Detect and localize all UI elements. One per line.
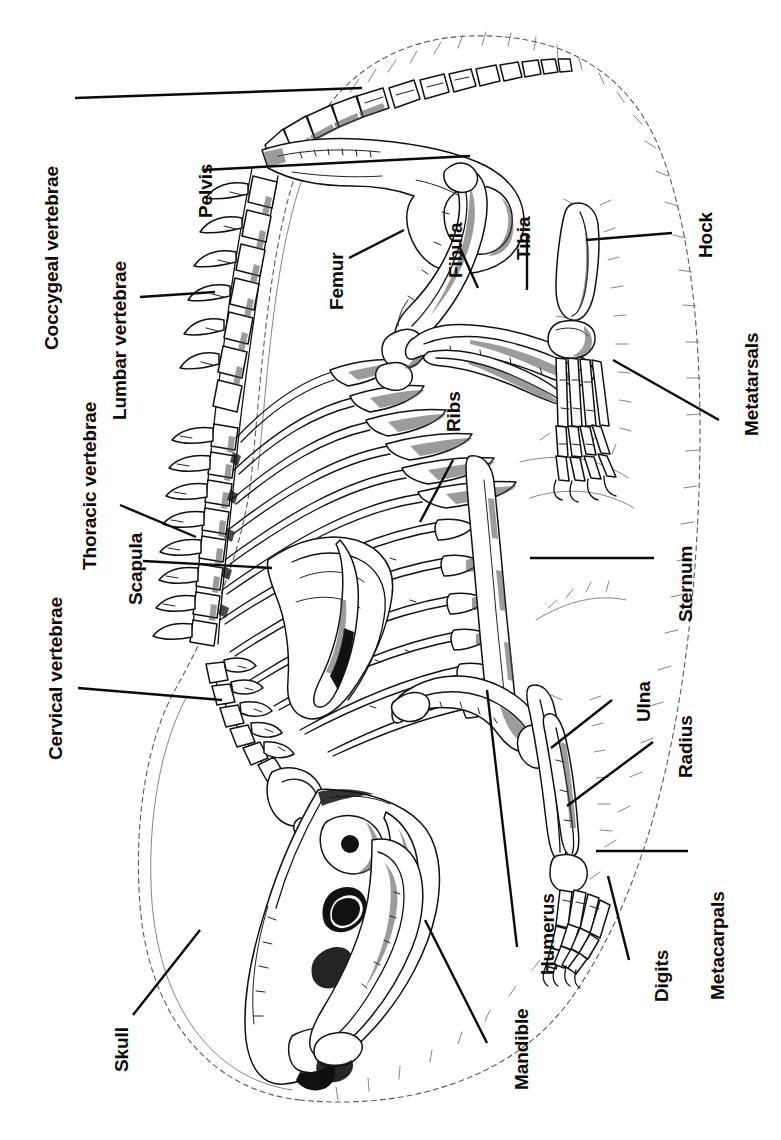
leader-radius xyxy=(567,742,653,806)
diagram-page: .bone { fill:#ffffff; stroke:#111111; st… xyxy=(0,0,781,1140)
label-ribs: Ribs xyxy=(444,391,463,432)
label-mandible: Mandible xyxy=(512,1008,531,1090)
label-metatarsals: Metatarsals xyxy=(742,333,761,436)
label-cervical-vertebrae: Cervical vertebrae xyxy=(46,597,65,760)
label-sternum: Sternum xyxy=(676,546,695,622)
label-tibia: Tibia xyxy=(514,217,533,261)
leader-digits xyxy=(608,876,629,960)
hind-digit-bones xyxy=(554,425,616,502)
thoracic-column xyxy=(153,424,241,646)
label-pelvis: Pelvis xyxy=(196,164,215,218)
label-skull: Skull xyxy=(112,1027,131,1072)
label-digits: Digits xyxy=(652,950,671,1002)
leader-femur xyxy=(349,230,404,258)
label-femur: Femur xyxy=(327,252,346,310)
metacarpal-bones xyxy=(550,854,610,938)
label-humerus: Humerus xyxy=(538,893,557,975)
leader-skull xyxy=(133,930,200,1015)
hock-bone xyxy=(548,203,599,358)
leader-metatarsals xyxy=(613,360,719,420)
label-hock: Hock xyxy=(696,212,715,258)
label-coccygeal-vertebrae: Coccygeal vertebrae xyxy=(42,166,61,350)
label-lumbar-vertebrae: Lumbar vertebrae xyxy=(110,261,129,420)
label-fibula: Fibula xyxy=(446,223,465,278)
label-scapula: Scapula xyxy=(126,533,145,605)
label-radius: Radius xyxy=(676,715,695,778)
label-thoracic-vertebrae: Thoracic vertebrae xyxy=(80,402,99,570)
leader-coccygeal xyxy=(75,88,362,98)
leader-cervical xyxy=(78,688,222,700)
metatarsal-bones xyxy=(556,358,609,427)
leader-mandible xyxy=(425,920,487,1043)
label-ulna: Ulna xyxy=(634,681,653,722)
label-metacarpals: Metacarpals xyxy=(708,891,727,1000)
scapula-bone xyxy=(267,537,392,719)
